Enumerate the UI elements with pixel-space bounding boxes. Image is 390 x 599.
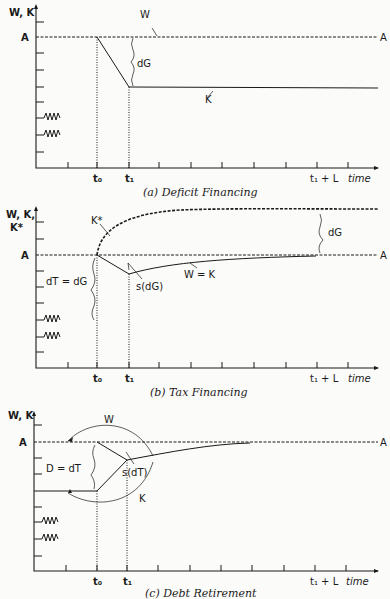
time-label-c: time [346, 576, 369, 587]
Kstar-label-b: K* [91, 215, 103, 226]
brace-dG-a [131, 38, 134, 86]
caption-a: (a) Deficit Financing [143, 186, 258, 199]
DdT-label-c: D = dT [46, 463, 82, 474]
brace-dTdG-b [91, 258, 95, 320]
panel-b: W, K, K* A A K* dG dT = dG s(dG) W = K t… [6, 206, 387, 399]
s-dT-label-c: s(dT) [122, 467, 148, 478]
t0-label-c: t₀ [93, 576, 102, 587]
level-A-right-b: A [380, 250, 387, 261]
level-A-left-c: A [19, 437, 27, 448]
t1L-label-b: t₁ + L [310, 373, 339, 384]
axis-break-icon [36, 130, 60, 137]
s-dG-label-b: s(dG) [136, 281, 163, 292]
t0-label-a: t₀ [93, 173, 102, 184]
t1-label-a: t₁ [125, 173, 134, 184]
axis-break-icon [36, 315, 60, 322]
level-A-left-b: A [21, 250, 29, 261]
t1-label-b: t₁ [125, 373, 134, 384]
level-A-right-a: A [380, 32, 387, 43]
dTdG-label-b: dT = dG [46, 276, 87, 287]
brace-DdT-c [91, 445, 95, 489]
y-axis-label-b2: K* [10, 222, 24, 233]
W-label-c: W [104, 414, 114, 425]
panel-a: W, K A A W dG K t₀ t₁ t₁ + L time (a) De… [9, 4, 387, 199]
W-curve-c [97, 442, 250, 460]
axis-break-icon [34, 534, 58, 541]
t0-label-b: t₀ [93, 373, 102, 384]
dG-label-b: dG [328, 227, 342, 238]
level-A-left-a: A [21, 32, 29, 43]
y-axis-label-b: W, K, [6, 209, 35, 220]
K-label-c: K [139, 493, 146, 504]
three-panel-diagram: W, K A A W dG K t₀ t₁ t₁ + L time (a) De… [0, 0, 390, 599]
y-axis-label-a: W, K [9, 7, 35, 18]
dG-label-a: dG [137, 58, 151, 69]
W-label-a: W [140, 9, 150, 20]
t1L-label-c: t₁ + L [310, 576, 339, 587]
t1-label-c: t₁ [123, 576, 132, 587]
brace-dG-b [319, 214, 323, 253]
time-label-a: time [348, 173, 371, 184]
panel-c: W, K A A W K D = dT s(dT) t₀ t₁ t₁ + L t… [8, 410, 387, 599]
WK-label-b: W = K [184, 269, 216, 280]
caption-c: (c) Debt Retirement [145, 587, 257, 599]
time-label-b: time [348, 373, 371, 384]
t1L-label-a: t₁ + L [310, 173, 339, 184]
level-A-right-c: A [380, 437, 387, 448]
axis-break-icon [34, 517, 58, 524]
axis-break-icon [36, 113, 60, 120]
K-label-a: K [205, 94, 212, 105]
axis-break-icon [36, 332, 60, 339]
W-arc-c [68, 425, 153, 456]
caption-b: (b) Tax Financing [150, 386, 248, 399]
y-axis-label-c: W, K [8, 410, 34, 421]
